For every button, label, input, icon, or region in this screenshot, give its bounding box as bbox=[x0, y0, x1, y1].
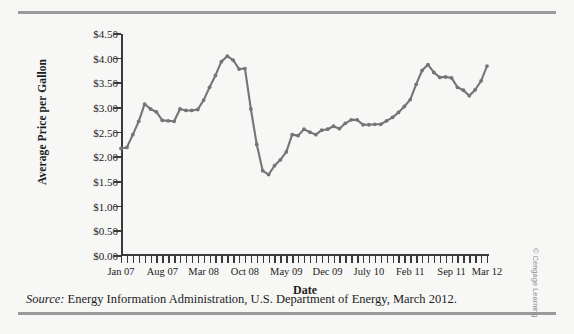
x-tick-mark bbox=[245, 256, 246, 263]
x-tick-mark bbox=[233, 256, 234, 263]
data-point-marker bbox=[326, 127, 330, 131]
data-point-marker bbox=[261, 169, 265, 173]
x-tick-mark bbox=[422, 256, 423, 263]
data-point-marker bbox=[302, 127, 306, 131]
data-point-marker bbox=[184, 109, 188, 113]
data-point-marker bbox=[420, 69, 424, 73]
x-tick-mark bbox=[162, 256, 163, 263]
data-point-marker bbox=[461, 88, 465, 92]
x-tick-mark bbox=[269, 256, 270, 263]
y-axis-title: Average Price per Gallon bbox=[36, 42, 48, 202]
data-point-marker bbox=[137, 119, 141, 123]
figure-container: Average Price per Gallon $0.00$0.50$1.00… bbox=[0, 0, 574, 334]
x-tick-mark bbox=[257, 256, 258, 263]
data-point-marker bbox=[149, 107, 153, 111]
data-point-marker bbox=[343, 121, 347, 125]
x-tick-mark bbox=[339, 256, 340, 263]
x-tick-label: Oct 08 bbox=[231, 266, 259, 277]
x-tick-mark bbox=[210, 256, 211, 263]
data-point-marker bbox=[367, 123, 371, 127]
x-tick-mark bbox=[463, 256, 464, 263]
y-tick-mark bbox=[114, 107, 121, 109]
x-tick-mark bbox=[310, 256, 311, 263]
x-tick-label: Mar 12 bbox=[472, 266, 503, 277]
data-point-marker bbox=[402, 105, 406, 109]
x-tick-mark bbox=[487, 256, 488, 263]
data-point-marker bbox=[338, 127, 342, 131]
x-tick-label: July 10 bbox=[354, 266, 385, 277]
x-tick-mark bbox=[345, 256, 346, 263]
x-tick-label: Jan 07 bbox=[107, 266, 134, 277]
y-tick-mark bbox=[114, 132, 121, 134]
price-series-line bbox=[121, 34, 487, 256]
data-point-marker bbox=[361, 123, 365, 127]
y-tick-mark bbox=[114, 58, 121, 60]
x-tick-mark bbox=[227, 256, 228, 263]
y-tick-mark bbox=[114, 181, 121, 183]
x-tick-mark bbox=[410, 256, 411, 263]
x-tick-mark bbox=[322, 256, 323, 263]
data-point-marker bbox=[255, 143, 259, 147]
x-tick-mark bbox=[328, 256, 329, 263]
data-point-marker bbox=[243, 67, 247, 71]
x-tick-mark bbox=[298, 256, 299, 263]
data-point-marker bbox=[190, 109, 194, 113]
x-tick-mark bbox=[334, 256, 335, 263]
x-tick-mark bbox=[145, 256, 146, 263]
data-point-marker bbox=[290, 133, 294, 137]
data-point-marker bbox=[166, 119, 170, 123]
y-tick-label: $1.00 bbox=[72, 201, 118, 213]
y-tick-mark bbox=[114, 206, 121, 208]
y-tick-label: $0.00 bbox=[72, 250, 118, 262]
x-tick-mark bbox=[151, 256, 152, 263]
x-tick-mark bbox=[369, 256, 370, 263]
y-tick-label: $1.50 bbox=[72, 176, 118, 188]
x-axis-tick-labels: Jan 07Aug 07Mar 08Oct 08May 09Dec 09July… bbox=[0, 266, 574, 282]
data-point-marker bbox=[408, 98, 412, 102]
x-tick-mark bbox=[186, 256, 187, 263]
x-tick-mark bbox=[457, 256, 458, 263]
data-point-marker bbox=[385, 119, 389, 123]
data-point-marker bbox=[225, 54, 229, 58]
y-tick-label: $4.00 bbox=[72, 53, 118, 65]
data-point-marker bbox=[379, 122, 383, 126]
data-point-marker bbox=[314, 133, 318, 137]
data-point-marker bbox=[456, 85, 460, 89]
data-point-marker bbox=[131, 133, 135, 137]
x-tick-mark bbox=[357, 256, 358, 263]
data-point-marker bbox=[332, 124, 336, 128]
data-point-marker bbox=[202, 98, 206, 102]
data-point-marker bbox=[391, 115, 395, 119]
data-point-marker bbox=[214, 74, 218, 78]
data-point-marker bbox=[426, 63, 430, 67]
data-point-marker bbox=[237, 67, 241, 71]
data-point-marker bbox=[196, 108, 200, 112]
data-point-marker bbox=[355, 118, 359, 122]
y-axis-tick-labels: $0.00$0.50$1.00$1.50$2.00$2.50$3.00$3.50… bbox=[72, 18, 118, 268]
data-point-marker bbox=[178, 107, 182, 111]
data-point-marker bbox=[208, 85, 212, 89]
y-tick-mark bbox=[114, 156, 121, 158]
data-point-marker bbox=[143, 102, 147, 106]
data-point-marker bbox=[267, 173, 271, 177]
x-tick-mark bbox=[398, 256, 399, 263]
data-point-marker bbox=[450, 76, 454, 80]
x-tick-mark bbox=[440, 256, 441, 263]
source-note: Source: Energy Information Administratio… bbox=[26, 292, 457, 307]
data-point-marker bbox=[479, 79, 483, 83]
x-tick-mark bbox=[251, 256, 252, 263]
x-tick-mark bbox=[121, 256, 122, 263]
x-tick-mark bbox=[139, 256, 140, 263]
x-tick-mark bbox=[263, 256, 264, 263]
x-tick-mark bbox=[198, 256, 199, 263]
y-tick-label: $4.50 bbox=[72, 28, 118, 40]
data-point-marker bbox=[432, 71, 436, 75]
x-tick-mark bbox=[416, 256, 417, 263]
x-tick-mark bbox=[156, 256, 157, 263]
source-label: Source: bbox=[26, 292, 64, 306]
x-tick-mark bbox=[221, 256, 222, 263]
x-tick-mark bbox=[174, 256, 175, 263]
x-tick-mark bbox=[452, 256, 453, 263]
data-point-marker bbox=[467, 94, 471, 98]
data-point-marker bbox=[231, 58, 235, 62]
